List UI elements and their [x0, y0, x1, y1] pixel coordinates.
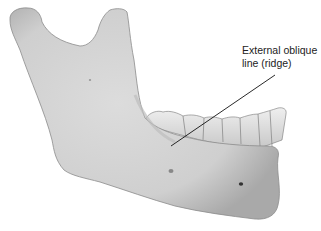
label-line-2: line (ridge)	[242, 57, 317, 70]
annotation-label: External oblique line (ridge)	[242, 44, 317, 70]
mandible-illustration	[0, 0, 321, 231]
mental-foramen	[239, 182, 243, 186]
label-line-1: External oblique	[242, 44, 317, 57]
mandible-figure: External oblique line (ridge)	[0, 0, 321, 231]
